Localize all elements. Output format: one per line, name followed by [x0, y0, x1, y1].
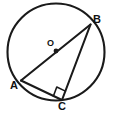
center-label-o: O: [47, 39, 54, 48]
point-label-c: C: [58, 101, 66, 112]
geometry-diagram: A B C O: [0, 0, 113, 114]
point-label-a: A: [10, 80, 18, 91]
point-label-b: B: [93, 14, 101, 25]
center-point-dot: [54, 49, 59, 54]
